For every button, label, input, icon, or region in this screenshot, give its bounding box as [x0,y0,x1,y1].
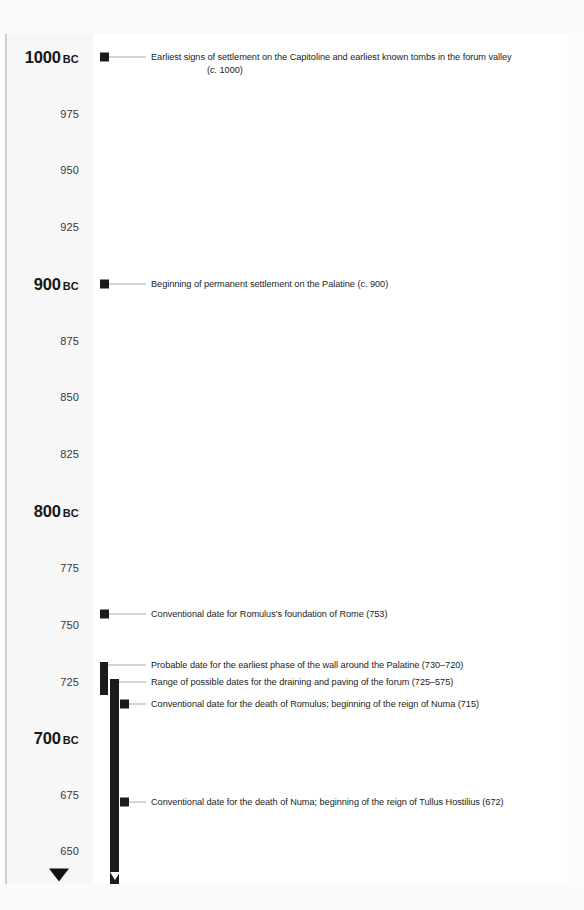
event-marker-death-of-numa[interactable] [120,798,129,807]
axis-tick-label: 925 [60,221,79,233]
event-leader-line [129,704,146,705]
axis-tick-650: 650 [60,845,79,857]
event-leader-line [109,614,146,615]
axis-tick-era: BC [63,507,79,519]
axis-tick-label: 725 [60,676,79,688]
event-label-settlement-capitoline: Earliest signs of settlement on the Capi… [151,51,512,76]
axis-tick-label: 750 [60,619,79,631]
timeline-axis: 1000BC 975 950 925 900BC 875 850 825 800… [7,34,93,884]
event-marker-foundation-of-rome[interactable] [100,610,109,619]
axis-tick-label: 875 [60,335,79,347]
event-subtext-value: 1000 [217,64,240,74]
event-leader-line [129,802,146,803]
axis-tick-era: BC [63,53,79,65]
axis-tick-850: 850 [60,391,79,403]
axis-tick-label: 650 [60,845,79,857]
event-label-death-of-numa: Conventional date for the death of Numa;… [151,796,504,809]
axis-tick-era: BC [63,280,79,292]
page-top-margin [0,0,584,34]
axis-tick-725: 725 [60,676,79,688]
axis-tick-label: 950 [60,164,79,176]
axis-tick-label: 700 [34,729,61,747]
event-text: Beginning of permanent settlement on the… [151,279,388,289]
event-text: Conventional date for the death of Numa;… [151,797,504,807]
axis-tick-800bc: 800BC [34,502,79,521]
event-text: Range of possible dates for the draining… [151,677,453,687]
event-marker-settlement-palatine[interactable] [100,280,109,289]
axis-tick-label: 1000 [25,48,61,66]
event-text: Earliest signs of settlement on the Capi… [151,52,512,62]
axis-tick-era: BC [63,734,79,746]
timeline-plot-panel: Earliest signs of settlement on the Capi… [93,34,567,884]
axis-tick-675: 675 [60,789,79,801]
axis-tick-label: 775 [60,562,79,574]
event-text: Conventional date for Romulus's foundati… [151,609,387,619]
event-subtext-prefix: c. [210,64,217,74]
range-bar-forum-draining-paving[interactable] [110,679,119,884]
axis-tick-label: 825 [60,448,79,460]
axis-tick-875: 875 [60,335,79,347]
axis-tick-label: 900 [34,275,61,293]
timeline-figure: 1000BC 975 950 925 900BC 875 850 825 800… [0,0,584,910]
event-label-settlement-palatine: Beginning of permanent settlement on the… [151,278,388,291]
axis-tick-975: 975 [60,108,79,120]
range-continues-icon [110,872,120,880]
event-label-death-of-romulus: Conventional date for the death of Romul… [151,698,479,711]
event-marker-death-of-romulus[interactable] [120,700,129,709]
axis-tick-label: 800 [34,502,61,520]
range-bar-palatine-wall[interactable] [100,662,108,695]
event-subtext: (c. 1000) [151,63,512,76]
axis-tick-750: 750 [60,619,79,631]
event-label-forum-draining-paving: Range of possible dates for the draining… [151,676,453,689]
axis-tick-775: 775 [60,562,79,574]
event-text: Probable date for the earliest phase of … [151,660,463,670]
event-leader-line [119,682,146,683]
event-leader-line [109,57,146,58]
axis-tick-label: 975 [60,108,79,120]
axis-tick-700bc: 700BC [34,729,79,748]
axis-tick-950: 950 [60,164,79,176]
event-label-palatine-wall: Probable date for the earliest phase of … [151,659,463,672]
axis-tick-925: 925 [60,221,79,233]
axis-tick-label: 850 [60,391,79,403]
event-marker-settlement-capitoline[interactable] [100,53,109,62]
event-leader-line [109,284,146,285]
event-label-foundation-of-rome: Conventional date for Romulus's foundati… [151,608,387,621]
page-bottom-margin [0,884,584,910]
axis-tick-900bc: 900BC [34,275,79,294]
down-triangle-icon [49,869,69,882]
event-text: Conventional date for the death of Romul… [151,699,479,709]
axis-tick-825: 825 [60,448,79,460]
axis-tick-1000bc: 1000BC [25,48,79,67]
axis-tick-label: 675 [60,789,79,801]
event-leader-line [108,665,146,666]
